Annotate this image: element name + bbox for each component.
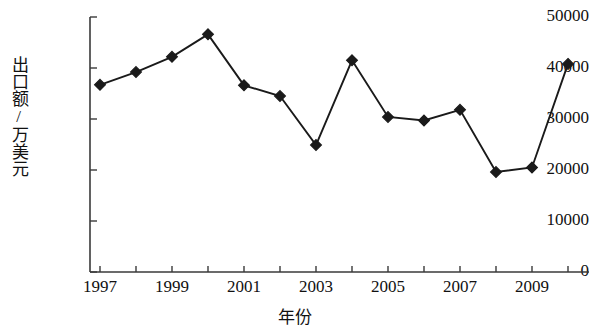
data-point-marker: [419, 115, 430, 126]
data-point-marker: [527, 162, 538, 173]
chart-container: 出口额/万美元 50000 40000 30000 20000 10000 0 …: [0, 0, 589, 333]
data-point-marker: [455, 104, 466, 115]
data-point-marker: [383, 112, 394, 123]
data-point-marker: [95, 79, 106, 90]
data-point-marker: [347, 55, 358, 66]
axis-lines: [90, 17, 589, 272]
data-point-marker: [563, 59, 574, 70]
data-point-marker: [491, 167, 502, 178]
axis-ticks: [90, 17, 568, 272]
plot-area: [0, 0, 589, 333]
data-point-marker: [131, 67, 142, 78]
data-point-marker: [167, 51, 178, 62]
